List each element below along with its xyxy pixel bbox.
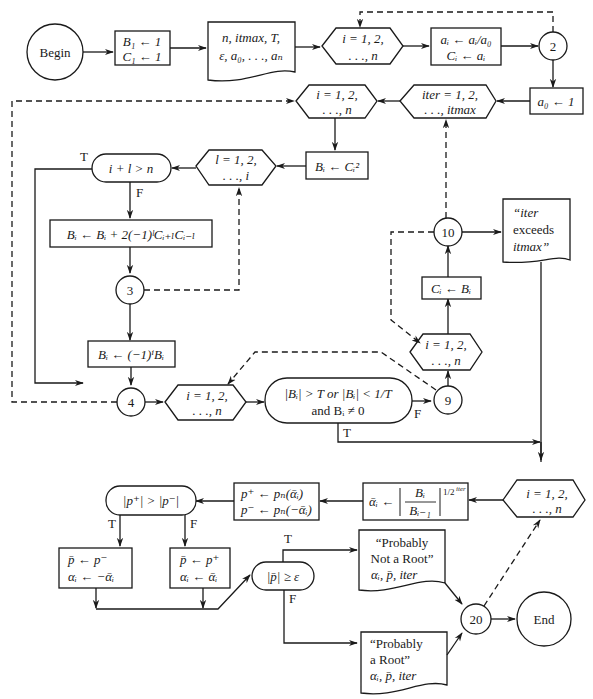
loop-i-2: i = 1, 2, . . ., n xyxy=(296,85,377,118)
svg-text:ᾱᵢ ←: ᾱᵢ ← xyxy=(369,494,394,509)
svg-text:and Bᵢ ≠ 0: and Bᵢ ≠ 0 xyxy=(312,403,365,418)
svg-text:|Bᵢ| > T or |Bᵢ| < 1/T: |Bᵢ| > T or |Bᵢ| < 1/T xyxy=(284,386,392,401)
svg-text:. . ., n: . . ., n xyxy=(322,102,351,117)
false-label: F xyxy=(414,406,421,421)
svg-text:Bᵢ: Bᵢ xyxy=(415,485,425,500)
svg-text:αᵢ ← −ᾱᵢ: αᵢ ← −ᾱᵢ xyxy=(68,569,114,584)
svg-text:. . ., n: . . ., n xyxy=(348,48,377,63)
output-exceeds-document: “iter exceeds itmax” xyxy=(503,199,570,263)
svg-text:. . ., n: . . ., n xyxy=(431,353,460,368)
output-not-root-document: “Probably Not a Root” αᵢ, p̄, iter xyxy=(359,530,445,591)
svg-text:Bᵢ ← (−1)ⁱBᵢ: Bᵢ ← (−1)ⁱBᵢ xyxy=(98,347,164,362)
loop-l: l = 1, 2, . . ., i xyxy=(196,150,276,185)
output-root-document: “Probably a Root” αᵢ, p̄, iter xyxy=(361,632,447,694)
true-label: T xyxy=(108,516,116,531)
loop-i-1: i = 1, 2, . . ., n xyxy=(322,28,403,64)
svg-text:αᵢ, p̄, iter: αᵢ, p̄, iter xyxy=(371,567,418,582)
svg-text:i = 1, 2,: i = 1, 2, xyxy=(342,31,384,46)
false-label: F xyxy=(190,516,197,531)
set-a0-box: a₀ ← 1 xyxy=(530,88,583,114)
svg-text:Bᵢ ← Bᵢ + 2(−1)ˡCᵢ₊ₗCᵢ₋ₗ: Bᵢ ← Bᵢ + 2(−1)ˡCᵢ₊ₗCᵢ₋ₗ xyxy=(67,227,195,242)
svg-text:p̄ ← p⁺: p̄ ← p⁺ xyxy=(179,552,219,567)
svg-text:i = 1, 2,: i = 1, 2, xyxy=(425,337,467,352)
svg-text:αᵢ ← ᾱᵢ: αᵢ ← ᾱᵢ xyxy=(180,569,217,584)
copy-C-box: Cᵢ ← Bᵢ xyxy=(422,277,481,299)
loop-iter: iter = 1, 2, . . ., itmax xyxy=(400,85,496,118)
square-box: Bᵢ ← Cᵢ² xyxy=(306,152,368,179)
eval-p-box: p⁺ ← pₙ(ᾱᵢ) p⁻ ← pₙ(−ᾱᵢ) xyxy=(234,483,319,520)
alpha-box: ᾱᵢ ← Bᵢ Bᵢ₋₁ 1/2 iter xyxy=(363,483,468,520)
svg-text:|p̄| ≥ ε: |p̄| ≥ ε xyxy=(267,569,300,584)
loop-i-3: i = 1, 2, . . ., n xyxy=(165,385,246,420)
choose-plus-box: p̄ ← p⁺ αᵢ ← ᾱᵢ xyxy=(170,548,230,588)
true-label: T xyxy=(343,425,351,440)
svg-text:Bᵢ₋₁: Bᵢ₋₁ xyxy=(409,503,430,518)
svg-text:i = 1, 2,: i = 1, 2, xyxy=(316,87,358,102)
svg-text:Bᵢ ← Cᵢ²: Bᵢ ← Cᵢ² xyxy=(315,159,360,174)
svg-text:Cᵢ ← aᵢ: Cᵢ ← aᵢ xyxy=(447,48,486,63)
svg-text:. . ., n: . . ., n xyxy=(192,403,221,418)
svg-text:n, itmax, T,: n, itmax, T, xyxy=(222,30,280,45)
svg-text:9: 9 xyxy=(445,393,452,408)
update-B-box: Bᵢ ← Bᵢ + 2(−1)ˡCᵢ₊ₗCᵢ₋ₗ xyxy=(50,220,212,247)
svg-text:4: 4 xyxy=(128,395,135,410)
svg-text:. . ., i: . . ., i xyxy=(223,168,250,183)
svg-text:l = 1, 2,: l = 1, 2, xyxy=(215,152,257,167)
svg-text:. . ., itmax: . . ., itmax xyxy=(424,102,476,117)
svg-text:i = 1, 2,: i = 1, 2, xyxy=(186,388,228,403)
svg-text:C₁ ← 1: C₁ ← 1 xyxy=(122,49,161,64)
decision-i-plus-l: i + l > n xyxy=(92,154,171,182)
svg-text:Not a Root”: Not a Root” xyxy=(371,551,434,566)
flowchart: Begin B₁ ← 1 C₁ ← 1 n, itmax, T, ε, a₀, … xyxy=(0,0,593,699)
svg-text:αᵢ, p̄, iter: αᵢ, p̄, iter xyxy=(370,668,417,683)
loop-i-4: i = 1, 2, . . ., n xyxy=(410,334,482,370)
true-label: T xyxy=(284,531,292,546)
svg-text:20: 20 xyxy=(470,612,483,627)
svg-text:iter = 1, 2,: iter = 1, 2, xyxy=(422,87,478,102)
loop-i-5: i = 1, 2, . . ., n xyxy=(503,480,585,517)
svg-text:ε, a₀, . . ., aₙ: ε, a₀, . . ., aₙ xyxy=(219,48,283,63)
false-label: F xyxy=(289,591,296,606)
choose-minus-box: p̄ ← p⁻ αᵢ ← −ᾱᵢ xyxy=(59,548,132,588)
svg-text:|p⁺| > |p⁻|: |p⁺| > |p⁻| xyxy=(123,493,179,508)
svg-text:2: 2 xyxy=(550,39,557,54)
svg-text:i + l > n: i + l > n xyxy=(109,161,153,176)
svg-text:B₁ ← 1: B₁ ← 1 xyxy=(123,34,161,49)
svg-text:p⁺ ← pₙ(ᾱᵢ): p⁺ ← pₙ(ᾱᵢ) xyxy=(240,486,303,501)
connector-2: 2 xyxy=(539,32,567,60)
svg-text:a Root”: a Root” xyxy=(370,652,410,667)
svg-text:3: 3 xyxy=(127,283,134,298)
svg-text:. . ., n: . . ., n xyxy=(532,501,561,516)
svg-text:p̄ ← p⁻: p̄ ← p⁻ xyxy=(67,552,107,567)
svg-text:a₀ ← 1: a₀ ← 1 xyxy=(537,94,574,109)
normalize-box: aᵢ ← aᵢ/a₀ Cᵢ ← aᵢ xyxy=(431,28,501,65)
decision-eps: |p̄| ≥ ε xyxy=(252,562,314,590)
svg-text:Cᵢ ← Bᵢ: Cᵢ ← Bᵢ xyxy=(431,281,471,296)
connector-4: 4 xyxy=(117,388,145,416)
connector-9: 9 xyxy=(434,386,462,414)
svg-text:itmax”: itmax” xyxy=(513,239,549,254)
connector-20: 20 xyxy=(461,604,491,634)
sign-B-box: Bᵢ ← (−1)ⁱBᵢ xyxy=(88,341,175,367)
decision-p: |p⁺| > |p⁻| xyxy=(106,486,196,515)
init-box: B₁ ← 1 C₁ ← 1 xyxy=(115,31,170,65)
svg-text:exceeds: exceeds xyxy=(513,222,554,237)
begin-node: Begin xyxy=(27,24,83,80)
svg-text:10: 10 xyxy=(442,225,455,240)
decision-threshold: |Bᵢ| > T or |Bᵢ| < 1/T and Bᵢ ≠ 0 xyxy=(265,378,412,423)
svg-text:p⁻ ← pₙ(−ᾱᵢ): p⁻ ← pₙ(−ᾱᵢ) xyxy=(240,502,312,517)
svg-text:iter: iter xyxy=(456,485,466,493)
exceeds-line-1: “iter xyxy=(513,205,539,220)
connector-10: 10 xyxy=(434,218,462,246)
end-node: End xyxy=(517,592,571,646)
svg-text:1/2: 1/2 xyxy=(443,487,455,497)
connector-3: 3 xyxy=(116,276,144,304)
svg-text:“Probably: “Probably xyxy=(370,636,423,651)
svg-text:i = 1, 2,: i = 1, 2, xyxy=(526,486,568,501)
false-label: F xyxy=(136,185,143,200)
svg-text:aᵢ ← aᵢ/a₀: aᵢ ← aᵢ/a₀ xyxy=(440,32,491,47)
input-document: n, itmax, T, ε, a₀, . . ., aₙ xyxy=(208,22,295,81)
true-label: T xyxy=(80,149,88,164)
svg-text:Begin: Begin xyxy=(39,45,71,60)
svg-text:“Probably: “Probably xyxy=(376,535,429,550)
